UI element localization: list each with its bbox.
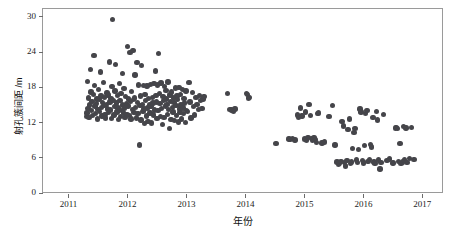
x-tick-mark (186, 194, 187, 198)
data-point (381, 112, 386, 117)
x-tick-label: 2017 (402, 199, 442, 209)
data-point (91, 53, 96, 58)
x-tick-label: 2015 (284, 199, 324, 209)
data-point (352, 126, 357, 131)
data-point (322, 139, 327, 144)
data-point (132, 72, 137, 77)
x-tick-mark (245, 194, 246, 198)
data-point (403, 125, 408, 130)
y-tick-mark (39, 16, 43, 17)
data-point (137, 142, 142, 147)
data-point (103, 115, 108, 120)
y-tick-mark (39, 87, 43, 88)
scatter-chart-figure: 0612182430 2011201220132014201520162017 … (0, 0, 455, 231)
x-axis-title: 年份 (183, 213, 303, 228)
data-point (128, 116, 133, 121)
x-tick-label: 2012 (108, 199, 148, 209)
x-tick-label: 2013 (166, 199, 206, 209)
data-point (186, 80, 191, 85)
data-point (192, 112, 197, 117)
y-tick-mark (39, 122, 43, 123)
data-point (345, 127, 350, 132)
x-tick-mark (68, 194, 69, 198)
data-point (377, 166, 382, 171)
data-point (411, 157, 416, 162)
data-point (332, 142, 337, 147)
data-point (107, 59, 112, 64)
data-point (397, 141, 402, 146)
data-point (316, 110, 321, 115)
data-point (98, 69, 103, 74)
data-point (165, 79, 170, 84)
data-point (160, 122, 165, 127)
data-point (375, 117, 380, 122)
data-point (167, 126, 172, 131)
data-point (292, 137, 297, 142)
data-point (314, 140, 319, 145)
y-tick-mark (39, 157, 43, 158)
y-tick-mark (39, 193, 43, 194)
y-tick-mark (39, 52, 43, 53)
y-tick-label: 30 (10, 11, 36, 21)
x-tick-label: 2014 (225, 199, 265, 209)
y-tick-label: 6 (10, 152, 36, 162)
data-point (378, 160, 383, 165)
data-point (374, 109, 379, 114)
data-point (308, 113, 313, 118)
data-point (306, 102, 311, 107)
data-point (183, 88, 188, 93)
x-tick-mark (422, 194, 423, 198)
data-point (121, 86, 126, 91)
y-tick-label: 24 (10, 46, 36, 56)
data-point (347, 116, 352, 121)
data-point (199, 106, 204, 111)
y-axis-title: 射孔簇间距 /m (12, 77, 25, 135)
data-point (390, 160, 395, 165)
data-point (130, 48, 135, 53)
data-point (153, 68, 158, 73)
x-tick-mark (363, 194, 364, 198)
x-tick-label: 2016 (343, 199, 383, 209)
x-tick-mark (304, 194, 305, 198)
x-tick-mark (127, 194, 128, 198)
data-point (232, 106, 237, 111)
y-tick-label: 0 (10, 187, 36, 197)
x-tick-label: 2011 (49, 199, 89, 209)
